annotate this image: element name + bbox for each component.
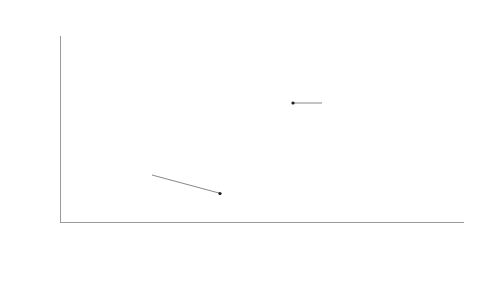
x-axis-line — [60, 222, 464, 223]
stacked-histogram-chart — [0, 0, 487, 287]
bar-series-group — [60, 37, 463, 222]
plot-area — [60, 37, 463, 222]
